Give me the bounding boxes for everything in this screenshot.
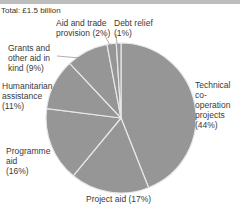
- label-humanitarian: Humanitarian assistance (11%): [2, 81, 53, 111]
- label-programme-aid: Programme aid (16%): [6, 146, 50, 176]
- label-debt-relief: Debt relief (1%): [114, 18, 153, 38]
- pie-slices: [46, 43, 196, 193]
- label-technical-cooperation: Technical co-operation projects (44%): [195, 80, 240, 130]
- label-project-aid: Project aid (17%): [86, 194, 151, 204]
- label-grants: Grants and other aid in kind (9%): [8, 43, 50, 73]
- label-aid-trade: Aid and trade provision (2%): [56, 18, 110, 38]
